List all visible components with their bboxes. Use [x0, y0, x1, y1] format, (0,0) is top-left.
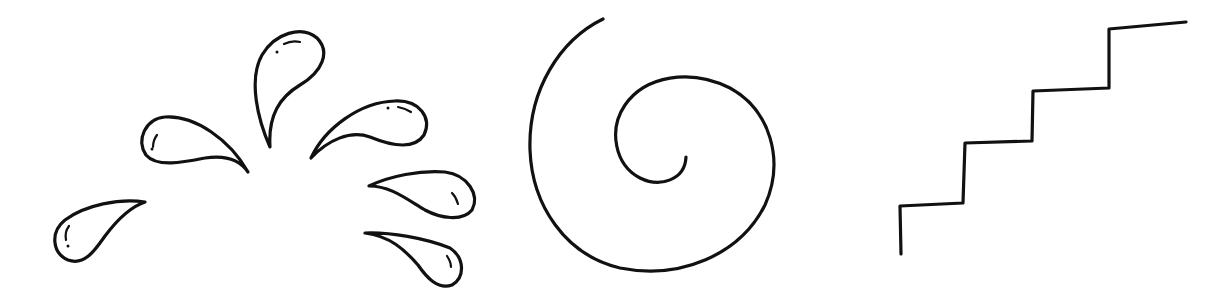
- droplet-icon: [142, 117, 248, 172]
- droplet-icon: [255, 32, 324, 147]
- droplet-icon: [55, 201, 145, 261]
- stairs-drawing: [900, 22, 1186, 254]
- splash-drawing: [55, 32, 475, 286]
- droplet-icon: [365, 233, 462, 286]
- droplet-icon: [311, 101, 426, 158]
- spiral-drawing: [530, 19, 774, 271]
- droplet-icon: [369, 172, 474, 218]
- line-art-canvas: [0, 0, 1229, 303]
